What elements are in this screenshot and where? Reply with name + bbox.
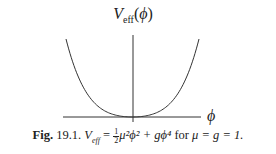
x-axis-label: ϕ bbox=[207, 107, 215, 125]
figure: Veff(ϕ) ϕ bbox=[0, 0, 276, 125]
plot-area bbox=[0, 0, 276, 125]
figure-caption: Fig. 19.1. Veff = 12μ²ϕ² + gϕ⁴ for μ = g… bbox=[0, 128, 276, 145]
